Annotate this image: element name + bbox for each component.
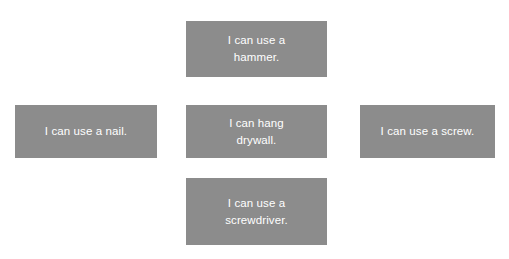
diagram-canvas: I can use a hammer. I can use a nail. I … [0, 0, 509, 259]
diagram-node-drywall[interactable]: I can hang drywall. [186, 105, 327, 158]
diagram-node-screwdriver[interactable]: I can use a screwdriver. [186, 178, 327, 245]
diagram-node-nail-label: I can use a nail. [23, 123, 149, 140]
diagram-node-screw-label: I can use a screw. [368, 123, 487, 140]
diagram-node-screwdriver-label: I can use a screwdriver. [194, 195, 319, 229]
diagram-node-hammer[interactable]: I can use a hammer. [186, 21, 327, 77]
diagram-node-hammer-label: I can use a hammer. [194, 32, 319, 66]
diagram-node-drywall-label: I can hang drywall. [194, 115, 319, 149]
diagram-node-nail[interactable]: I can use a nail. [15, 105, 157, 158]
diagram-node-screw[interactable]: I can use a screw. [360, 105, 495, 158]
